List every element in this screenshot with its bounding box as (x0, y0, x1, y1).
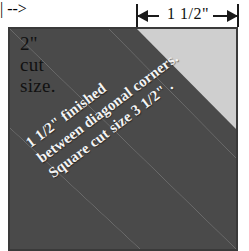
right-arrow-icon (227, 10, 238, 22)
left-arrow-icon (137, 10, 148, 22)
corner-label-line-3: size. (20, 75, 56, 96)
top-dimension-line: 1 1/2" (133, 4, 243, 28)
corner-label-line-2: cut (20, 54, 56, 75)
square-patch: 2" cut size. 1 1/2" finished between dia… (8, 27, 238, 251)
corner-cut-size-label: 2" cut size. (20, 33, 56, 96)
corner-label-line-1: 2" (20, 33, 56, 54)
dimension-label: 1 1/2" (155, 2, 221, 26)
